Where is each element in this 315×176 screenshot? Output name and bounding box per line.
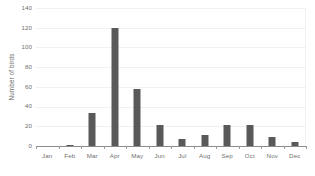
bar-slot (126, 8, 149, 146)
x-axis-tick (239, 146, 240, 149)
bar-slot (239, 8, 262, 146)
bar[interactable] (246, 125, 253, 146)
bar-slot (149, 8, 172, 146)
bar[interactable] (224, 125, 231, 146)
bar-chart: 020406080100120140 Number of birds JanFe… (0, 0, 315, 176)
x-axis-tick-label: Feb (59, 152, 82, 159)
bar-slot (284, 8, 307, 146)
bar-slot (81, 8, 104, 146)
x-axis-tick-label: Jun (149, 152, 172, 159)
bar[interactable] (179, 139, 186, 146)
bar-slot (194, 8, 217, 146)
y-axis-title: Number of birds (8, 53, 15, 100)
x-axis: JanFebMarAprMayJunJulAugSepOctNovDec (36, 146, 306, 176)
bar-slot (36, 8, 59, 146)
x-axis-tick-label: Jan (36, 152, 59, 159)
x-axis-tick (284, 146, 285, 149)
bar[interactable] (134, 89, 141, 146)
x-axis-tick-label: Nov (261, 152, 284, 159)
bar-slot (104, 8, 127, 146)
bar-series (36, 8, 306, 146)
bar[interactable] (269, 137, 276, 146)
x-axis-tick (81, 146, 82, 149)
x-axis-tick-label: Sep (216, 152, 239, 159)
x-axis-tick (261, 146, 262, 149)
bar-slot (216, 8, 239, 146)
bar[interactable] (156, 125, 163, 146)
bar-slot (171, 8, 194, 146)
bar[interactable] (201, 135, 208, 146)
x-axis-tick (306, 146, 307, 149)
x-axis-tick (194, 146, 195, 149)
x-axis-tick-label: Aug (194, 152, 217, 159)
bar-slot (59, 8, 82, 146)
x-axis-tick-label: Jul (171, 152, 194, 159)
x-axis-tick (59, 146, 60, 149)
x-axis-tick (36, 146, 37, 149)
x-axis-tick-label: Oct (239, 152, 262, 159)
x-axis-tick (104, 146, 105, 149)
bar[interactable] (111, 28, 118, 146)
x-axis-tick-label: Dec (284, 152, 307, 159)
x-axis-tick-label: Mar (81, 152, 104, 159)
x-axis-tick (126, 146, 127, 149)
bar[interactable] (89, 113, 96, 147)
x-axis-tick-label: Apr (104, 152, 127, 159)
y-axis-title-container: Number of birds (10, 8, 20, 146)
x-axis-tick (171, 146, 172, 149)
x-axis-tick (216, 146, 217, 149)
x-axis-tick-label: May (126, 152, 149, 159)
bar-slot (261, 8, 284, 146)
plot-area (36, 8, 306, 146)
x-axis-tick (149, 146, 150, 149)
